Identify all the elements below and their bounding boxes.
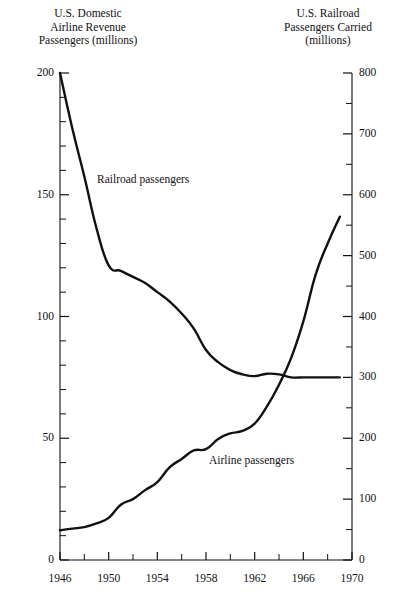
series-label-railroad: Railroad passengers [97,174,189,186]
tick-label: 400 [359,311,409,323]
tick-label: 100 [6,311,54,323]
series-line-airline [60,217,340,531]
tick-label: 200 [6,67,54,79]
axis-lines [60,73,352,560]
tick-label: 700 [359,128,409,140]
tick-label: 1950 [87,573,131,585]
x-axis-ticks [60,552,352,560]
tick-label: 1946 [38,573,82,585]
chart-figure: U.S. Domestic Airline Revenue Passengers… [0,0,413,595]
tick-label: 1966 [281,573,325,585]
tick-label: 200 [359,432,409,444]
tick-label: 1970 [330,573,374,585]
plot-canvas [0,0,413,595]
tick-label: 800 [359,67,409,79]
tick-label: 600 [359,189,409,201]
tick-label: 100 [359,493,409,505]
tick-label: 150 [6,189,54,201]
tick-label: 0 [6,554,54,566]
tick-label: 1958 [184,573,228,585]
tick-label: 500 [359,250,409,262]
tick-label: 1962 [233,573,277,585]
series-label-airline: Airline passengers [209,455,294,467]
tick-label: 50 [6,432,54,444]
left-axis-ticks [60,73,69,560]
tick-label: 1954 [135,573,179,585]
tick-label: 300 [359,371,409,383]
series-line-railroad [60,73,340,378]
tick-label: 0 [359,554,409,566]
right-axis-ticks [343,73,352,560]
